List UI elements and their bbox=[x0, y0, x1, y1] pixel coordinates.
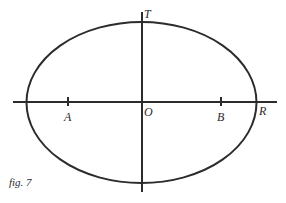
label-o: O bbox=[144, 105, 153, 119]
ellipse-diagram: T O A B R fig. 7 bbox=[0, 0, 286, 203]
label-a: A bbox=[63, 110, 72, 124]
figure-caption: fig. 7 bbox=[9, 176, 32, 188]
label-b: B bbox=[217, 110, 225, 124]
label-r: R bbox=[258, 104, 267, 118]
label-t: T bbox=[144, 7, 152, 21]
